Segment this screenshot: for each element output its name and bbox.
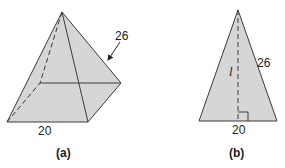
caption-a: (a) bbox=[56, 146, 71, 160]
base-label-b: 20 bbox=[232, 123, 246, 137]
pyramid-diagram: 26 20 (a) l 26 20 (b) bbox=[0, 0, 285, 168]
triangle-figure-b: l 26 20 (b) bbox=[199, 10, 277, 160]
slant-edge-label-a: 26 bbox=[115, 29, 129, 43]
caption-b: (b) bbox=[229, 146, 244, 160]
slant-height-label: l bbox=[229, 64, 233, 79]
base-edge-label-a: 20 bbox=[38, 124, 52, 138]
pyramid-silhouette bbox=[7, 12, 121, 122]
side-label-b: 26 bbox=[257, 56, 271, 70]
slant-edge-arrow bbox=[108, 42, 120, 60]
pyramid-figure-a: 26 20 (a) bbox=[7, 12, 129, 160]
